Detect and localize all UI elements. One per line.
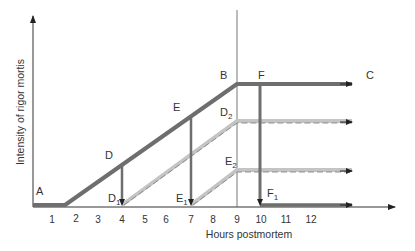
rigor-mortis-diagram: A B C D E F D1 E1 D2 E2 F1 1 2 3 4 5 6 7… xyxy=(0,0,415,251)
label-e1: E1 xyxy=(176,192,188,207)
y-axis-label: Intensity of rigor mortis xyxy=(14,59,26,165)
svg-text:2: 2 xyxy=(73,213,79,224)
main-curve-a-b-c xyxy=(33,84,352,205)
label-d: D xyxy=(105,149,113,161)
svg-text:6: 6 xyxy=(163,214,169,225)
svg-text:1: 1 xyxy=(49,214,55,225)
svg-text:8: 8 xyxy=(210,214,216,225)
label-d2: D2 xyxy=(220,106,233,121)
x-tick-labels: 1 2 3 4 5 6 7 8 9 10 11 12 xyxy=(49,213,317,225)
svg-text:5: 5 xyxy=(142,214,148,225)
x-axis-label: Hours postmortem xyxy=(206,228,293,240)
svg-text:11: 11 xyxy=(281,214,292,225)
label-f1: F1 xyxy=(267,187,279,202)
drop-e-to-e1 xyxy=(188,118,194,206)
label-c: C xyxy=(366,69,374,81)
label-e2: E2 xyxy=(225,155,237,170)
label-a: A xyxy=(36,185,44,197)
svg-text:7: 7 xyxy=(188,214,194,225)
label-b: B xyxy=(220,69,227,81)
svg-text:12: 12 xyxy=(305,214,317,225)
label-e: E xyxy=(173,101,180,113)
svg-text:3: 3 xyxy=(95,214,101,225)
svg-text:10: 10 xyxy=(255,214,267,225)
drop-f-to-f1 xyxy=(257,84,263,206)
label-d1: D1 xyxy=(108,192,121,207)
label-f: F xyxy=(258,69,265,81)
svg-text:4: 4 xyxy=(119,214,125,225)
svg-text:9: 9 xyxy=(234,214,240,225)
